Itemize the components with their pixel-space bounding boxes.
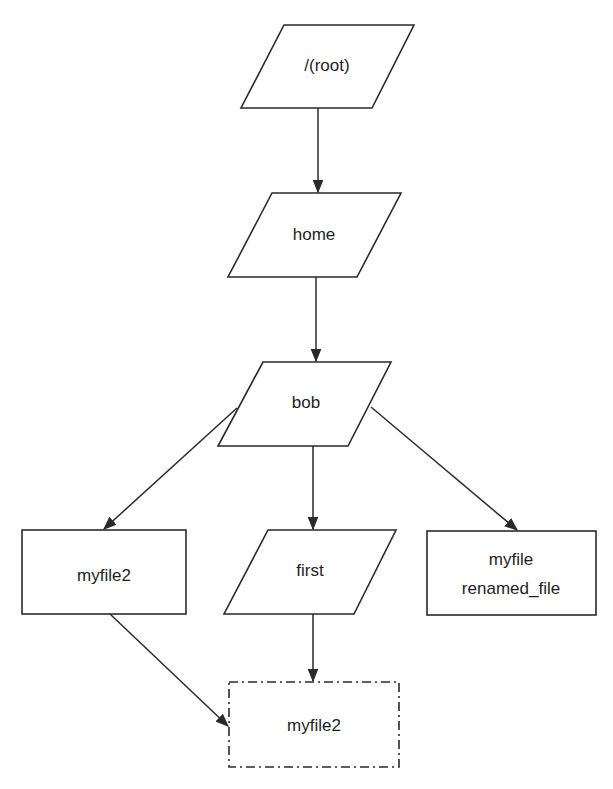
node-bob: bob <box>218 362 391 446</box>
node-label: /(root) <box>304 56 349 75</box>
node-root: /(root) <box>241 25 414 108</box>
edge-myfile2-to-moved-myfile2 <box>110 614 228 726</box>
node-myfile2: myfile2 <box>22 530 186 614</box>
rectangle-shape <box>427 531 596 615</box>
node-label: first <box>296 561 324 580</box>
node-renamed-file: myfile renamed_file <box>427 531 596 615</box>
node-label-line-2: renamed_file <box>462 579 560 598</box>
node-first: first <box>224 530 396 614</box>
node-label: bob <box>292 393 320 412</box>
node-label-line-1: myfile <box>489 550 533 569</box>
edge-bob-to-renamed-file <box>371 407 517 530</box>
node-label: myfile2 <box>77 566 131 585</box>
directory-tree-diagram: /(root) home bob myfile2 first myfile re… <box>0 0 613 789</box>
edge-bob-to-myfile2 <box>104 408 237 529</box>
node-label: myfile2 <box>287 716 341 735</box>
node-label: home <box>293 225 336 244</box>
node-home: home <box>228 193 401 277</box>
node-moved-myfile2: myfile2 <box>229 682 399 767</box>
